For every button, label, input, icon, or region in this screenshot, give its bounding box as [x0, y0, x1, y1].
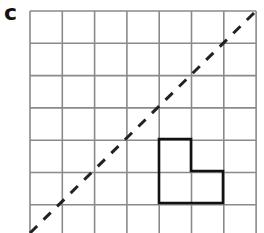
- grid-diagram: [0, 0, 264, 233]
